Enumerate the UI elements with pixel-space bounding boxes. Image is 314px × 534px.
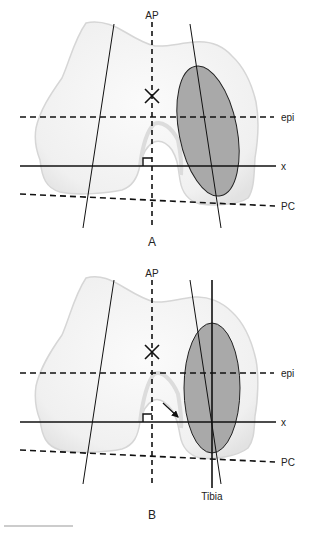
- label-pc-b: PC: [281, 457, 295, 468]
- label-tibia-b: Tibia: [201, 491, 223, 502]
- label-x-b: x: [281, 417, 286, 428]
- right-angle-icon-b: [143, 414, 152, 422]
- label-pc-a: PC: [281, 201, 295, 212]
- label-epi-a: epi: [281, 112, 294, 123]
- knee-axes-diagram: AP epi x PC A AP epi x PC Tibia B: [0, 0, 314, 534]
- label-epi-b: epi: [281, 368, 294, 379]
- label-ap-b: AP: [145, 268, 159, 279]
- panel-caption-b: B: [148, 508, 156, 522]
- label-ap-a: AP: [145, 10, 159, 21]
- label-x-a: x: [281, 161, 286, 172]
- panel-caption-a: A: [148, 235, 156, 249]
- right-angle-icon-a: [143, 158, 152, 166]
- panel-b: AP epi x PC Tibia B: [20, 268, 295, 522]
- panel-a: AP epi x PC A: [20, 10, 295, 249]
